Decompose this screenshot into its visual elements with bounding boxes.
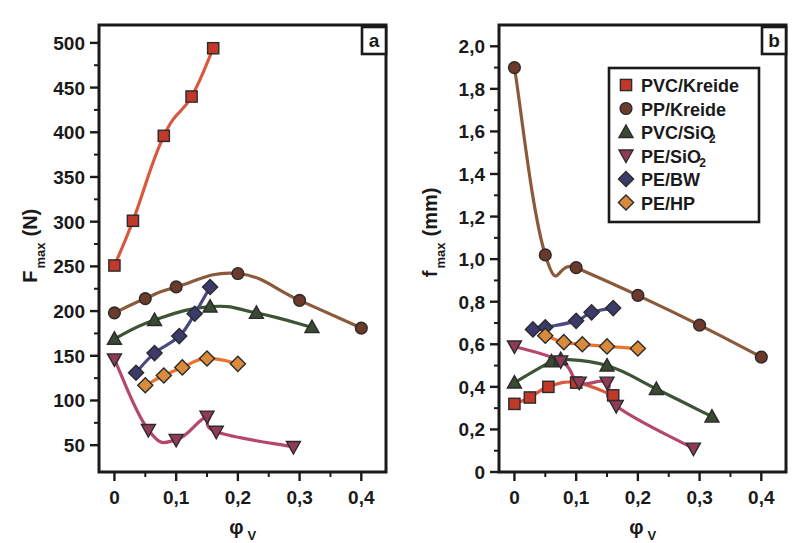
marker-circle <box>539 249 551 261</box>
marker-circle <box>170 281 182 293</box>
ytick-label: 0,8 <box>459 292 485 313</box>
legend-item-label-sub: 2 <box>709 132 716 146</box>
xtick-label: 0,1 <box>163 487 190 508</box>
marker-square <box>543 381 554 392</box>
chart-svg: 5010015020025030035040045050000,10,20,30… <box>0 0 797 543</box>
series-markers-PE-BW <box>525 301 620 337</box>
xtick-label: 0,3 <box>686 487 712 508</box>
marker-triangle-down <box>286 442 300 454</box>
panel-tag-a: a <box>362 27 386 54</box>
yaxis-title-a: Fmax(N) <box>19 209 48 283</box>
marker-triangle-down <box>686 443 700 455</box>
xtick-label: 0,2 <box>625 487 651 508</box>
xtick-label: 0,4 <box>348 487 375 508</box>
yaxis-title-sub: max <box>433 242 448 269</box>
ytick-label: 450 <box>53 78 85 99</box>
ytick-label: 1,0 <box>459 249 485 270</box>
xaxis-title-sub: V <box>648 528 657 543</box>
marker-circle <box>139 293 151 305</box>
ytick-label: 500 <box>53 33 85 54</box>
series-line-PVC-Kreide <box>114 48 213 265</box>
marker-circle <box>355 322 367 334</box>
ytick-label: 1,2 <box>459 207 485 228</box>
series-line-PE-SiO2 <box>514 346 693 448</box>
marker-triangle-up <box>507 376 521 388</box>
ytick-label: 0,4 <box>459 377 486 398</box>
yaxis-title-units: (N) <box>19 209 41 237</box>
legend-item-label: PVC/Kreide <box>641 76 739 96</box>
xaxis-title-main: φ <box>229 516 243 538</box>
marker-square <box>158 130 169 141</box>
ytick-label: 1,6 <box>459 121 485 142</box>
legend-item-label: PE/HP <box>641 194 695 214</box>
xtick-label: 0 <box>109 487 120 508</box>
figure-root: 5010015020025030035040045050000,10,20,30… <box>0 0 797 543</box>
ytick-label: 100 <box>53 390 85 411</box>
ytick-label: 400 <box>53 122 85 143</box>
marker-square <box>127 215 138 226</box>
marker-diamond <box>156 368 171 383</box>
xtick-label: 0,1 <box>563 487 590 508</box>
marker-diamond <box>175 360 190 375</box>
series-markers-PVC-SiO2 <box>507 352 719 422</box>
marker-diamond <box>569 313 584 328</box>
legend: PVC/KreidePP/KreidePVC/SiO2PE/SiO2PE/BWP… <box>609 68 759 222</box>
legend-item-label: PP/Kreide <box>641 100 726 120</box>
legend-item-label: PE/SiO <box>641 147 701 167</box>
legend-item-label: PVC/SiO <box>641 123 714 143</box>
xaxis-title-sub: V <box>248 528 257 543</box>
marker-diamond <box>199 351 214 366</box>
panel-tag-b: b <box>762 27 786 54</box>
marker-circle <box>109 307 121 319</box>
ytick-label: 50 <box>64 435 85 456</box>
marker-diamond <box>599 339 614 354</box>
marker-square <box>208 43 219 54</box>
xaxis-title-b: φV <box>629 516 656 543</box>
xaxis-title-main: φ <box>629 516 643 538</box>
ytick-label: 1,8 <box>459 79 485 100</box>
marker-circle <box>632 289 644 301</box>
ytick-label: 1,4 <box>459 164 486 185</box>
yaxis-title-main: f <box>419 270 441 277</box>
ytick-label: 250 <box>53 256 85 277</box>
marker-square <box>186 91 197 102</box>
marker-square <box>608 390 619 401</box>
ytick-label: 0,6 <box>459 334 485 355</box>
ytick-label: 0,2 <box>459 419 485 440</box>
xtick-label: 0,4 <box>748 487 775 508</box>
panel-tag-label: a <box>369 30 380 51</box>
marker-circle <box>232 268 244 280</box>
plot-frame-a <box>99 25 386 472</box>
marker-circle <box>509 62 521 74</box>
ytick-label: 300 <box>53 212 85 233</box>
marker-square <box>620 79 631 90</box>
marker-triangle-down <box>107 354 121 366</box>
xtick-label: 0 <box>509 487 520 508</box>
yaxis-title-units: (mm) <box>419 188 441 237</box>
series-group-a <box>107 43 367 454</box>
marker-diamond <box>575 337 590 352</box>
panel-a: 5010015020025030035040045050000,10,20,30… <box>19 25 386 543</box>
ytick-label: 200 <box>53 301 85 322</box>
panel-tag-label: b <box>768 30 780 51</box>
marker-circle <box>755 351 767 363</box>
marker-circle <box>694 319 706 331</box>
xaxis-title-a: φV <box>229 516 256 543</box>
marker-diamond <box>230 356 245 371</box>
marker-square <box>524 392 535 403</box>
marker-circle <box>294 294 306 306</box>
marker-diamond <box>138 378 153 393</box>
ytick-label: 2,0 <box>459 36 485 57</box>
marker-diamond <box>584 305 599 320</box>
ytick-label: 150 <box>53 346 85 367</box>
marker-circle <box>570 262 582 274</box>
marker-diamond <box>606 301 621 316</box>
marker-diamond <box>203 279 218 294</box>
ytick-label: 0 <box>474 462 485 483</box>
marker-square <box>509 398 520 409</box>
series-markers-PE-HP <box>538 328 646 356</box>
marker-diamond <box>630 341 645 356</box>
ytick-label: 350 <box>53 167 85 188</box>
xtick-label: 0,2 <box>225 487 251 508</box>
legend-item-label: PE/BW <box>641 170 700 190</box>
